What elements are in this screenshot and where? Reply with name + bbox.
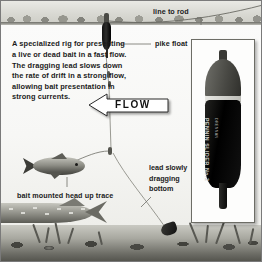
label-dragging: dragging (149, 174, 187, 185)
label-bottom: bottom (149, 184, 187, 195)
inset-product-brand: DRENNAN (214, 118, 218, 168)
bait-fish (23, 151, 93, 183)
inset-float-body (205, 100, 241, 188)
inset-float-stem (219, 183, 227, 209)
inset-product-name: PENNIN SLIDER No.2 (204, 118, 210, 178)
bait-fish-eye (75, 163, 78, 166)
label-line-to-rod: line to rod (153, 7, 189, 16)
label-lead-slowly: lead slowly (149, 163, 187, 174)
label-lead-dragging-block: lead slowly dragging bottom (149, 163, 187, 195)
bait-fish-dorsal-fin (51, 153, 67, 159)
inset-float-head (205, 59, 241, 99)
swivel (108, 147, 112, 155)
float-product-inset-photo: PENNIN SLIDER No.2 DRENNAN (191, 39, 255, 223)
flow-label: FLOW (115, 99, 151, 110)
label-bait-trace: bait mounted head up trace (17, 191, 113, 200)
fishing-rig-diagram: A specialized rig for presenting a live … (0, 0, 262, 262)
label-pike-float: pike float (155, 39, 188, 48)
bait-fish-pelvic-fin (49, 172, 63, 179)
flow-arrow: FLOW (89, 93, 169, 117)
